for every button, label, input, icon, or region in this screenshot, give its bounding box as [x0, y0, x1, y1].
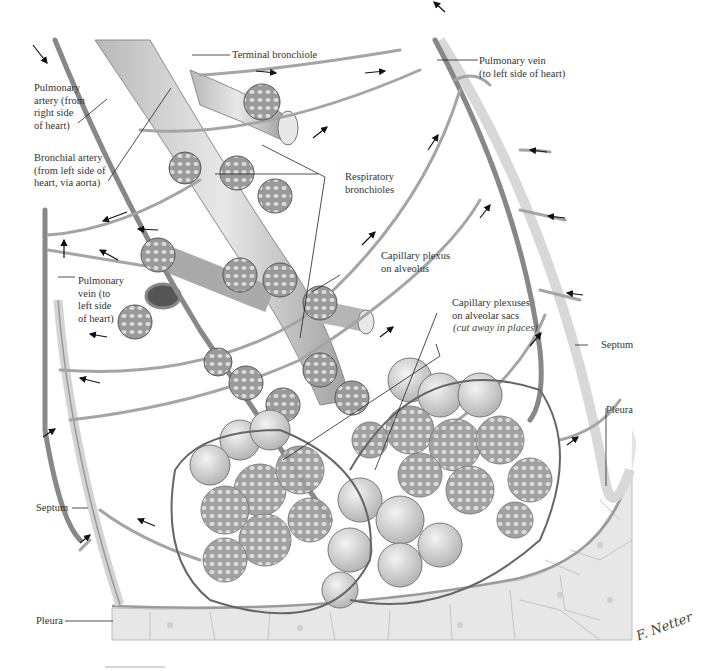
label-terminal-bronchiole: Terminal bronchiole: [232, 49, 317, 62]
label-capillary-plexus-alveolus: Capillary plexus on alveolus: [381, 250, 450, 275]
svg-text:F. Netter: F. Netter: [633, 609, 695, 644]
label-respiratory-bronchioles: Respiratory bronchioles: [345, 171, 394, 196]
lung-circulation-illustration: F. Netter: [0, 0, 701, 671]
label-septum-left: Septum: [36, 502, 68, 515]
label-pleura-right: Pleura: [606, 404, 633, 417]
label-cut-away-note: (cut away in places): [453, 322, 538, 335]
label-pulmonary-artery: Pulmonary artery (from right side of hea…: [34, 82, 85, 132]
label-pleura-left: Pleura: [36, 615, 63, 628]
label-capillary-plexuses-sacs: Capillary plexuses on alveolar sacs: [452, 297, 530, 322]
signature: F. Netter: [633, 609, 695, 644]
label-pulmonary-vein-top: Pulmonary vein (to left side of heart): [479, 55, 565, 80]
label-pulmonary-vein-left: Pulmonary vein (to left side of heart): [78, 275, 124, 325]
label-bronchial-artery: Bronchial artery (from left side of hear…: [34, 152, 105, 190]
label-septum-right: Septum: [601, 339, 633, 352]
